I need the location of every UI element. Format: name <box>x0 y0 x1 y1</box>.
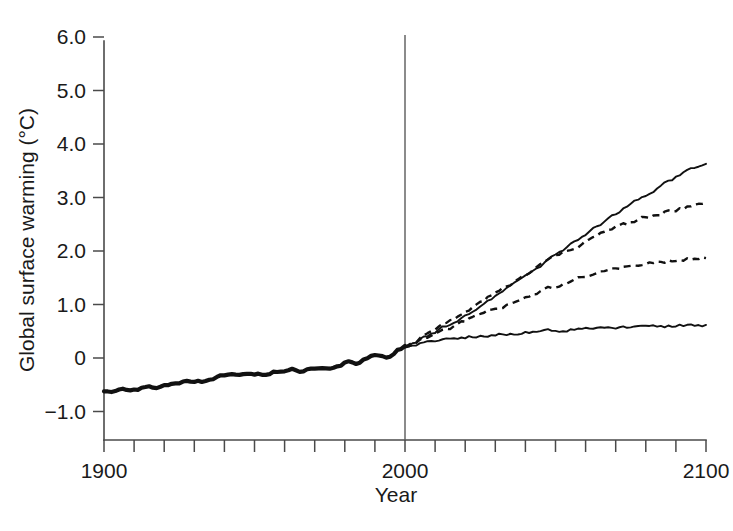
x-axis-tick-label: 1900 <box>81 459 128 482</box>
chart-figure: 6.05.04.03.02.01.00−1.0 190020002100 Glo… <box>0 0 733 531</box>
x-axis-minor-tick-marks <box>104 440 706 452</box>
y-axis-title: Global surface warming (°C) <box>15 108 38 372</box>
y-axis-tick-label: 0 <box>74 346 86 369</box>
global-warming-projection-chart: 6.05.04.03.02.01.00−1.0 190020002100 Glo… <box>0 0 733 531</box>
y-axis-tick-label: 1.0 <box>57 293 86 316</box>
y-axis-tick-label: 5.0 <box>57 79 86 102</box>
y-axis-tick-label: −1.0 <box>45 400 86 423</box>
x-axis-tick-label: 2000 <box>382 459 429 482</box>
x-axis-title: Year <box>375 483 417 506</box>
y-axis-tick-label: 6.0 <box>57 25 86 48</box>
chart-background <box>0 0 733 531</box>
y-axis-tick-label: 4.0 <box>57 132 86 155</box>
y-axis-tick-label: 2.0 <box>57 239 86 262</box>
x-axis-tick-label: 2100 <box>683 459 730 482</box>
y-axis-tick-label: 3.0 <box>57 186 86 209</box>
